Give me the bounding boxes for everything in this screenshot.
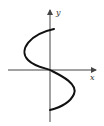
x-axis-label: x: [90, 73, 95, 82]
graph: y x: [0, 0, 104, 126]
y-axis-label: y: [55, 8, 61, 17]
